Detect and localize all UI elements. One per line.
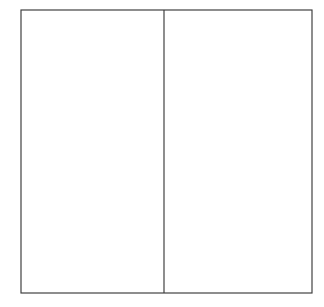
right-panel: [164, 10, 312, 293]
two-panel-rectangle-diagram: [0, 0, 324, 307]
left-panel: [21, 10, 164, 293]
diagram-canvas: [0, 0, 324, 307]
